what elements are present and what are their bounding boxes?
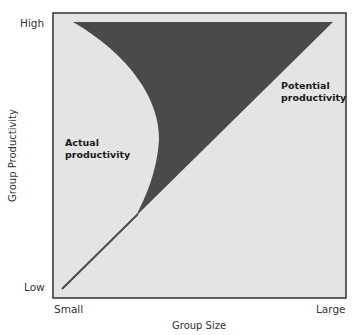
x-tick-small: Small <box>54 303 83 315</box>
x-tick-large: Large <box>316 303 346 315</box>
y-axis-title: Group Productivity <box>7 106 18 206</box>
actual-productivity-label: Actual productivity <box>65 137 130 161</box>
potential-label-line1: Potential <box>281 80 346 92</box>
actual-label-line1: Actual <box>65 137 130 149</box>
potential-productivity-label: Potential productivity <box>281 80 346 104</box>
x-axis-title: Group Size <box>172 320 226 331</box>
actual-label-line2: productivity <box>65 149 130 161</box>
y-tick-high: High <box>20 17 44 29</box>
potential-label-line2: productivity <box>281 92 346 104</box>
diagram-canvas <box>0 0 358 335</box>
y-tick-low: Low <box>24 281 45 293</box>
